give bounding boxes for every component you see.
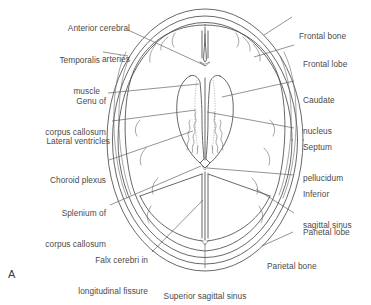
leader-lateral-ventricles [112,110,196,121]
label-falx-cerebri: Falx cerebri in longitudinal fissure [38,235,148,305]
anterior-longitudinal-fissure [200,27,210,66]
label-line: Caudate [303,95,369,105]
label-line: Falx cerebri in [38,255,148,265]
label-parietal-bone: Parietal bone [267,241,337,292]
splenium-shape [200,163,210,170]
label-line: Inferior [303,189,371,199]
label-line: Parietal lobe [303,227,371,237]
leader-falx-cerebri [152,200,203,252]
label-line: Genu of [6,96,106,106]
leader-choroid-plexus [109,131,193,160]
label-line: Superior sagittal sinus [145,291,265,301]
label-line: Frontal lobe [303,59,371,69]
label-line: Lateral ventricles [12,136,110,146]
leader-anterior-cerebral-arteries [128,30,206,66]
label-line: Septum [303,142,371,152]
leader-frontal-bone [264,17,292,35]
label-line: Splenium of [6,208,106,218]
label-line: Anterior cerebral [18,23,130,33]
panel-letter: A [8,268,15,280]
label-line: Parietal bone [267,261,337,271]
label-line: Temporalis [18,55,100,65]
label-superior-sagittal-sinus: Superior sagittal sinus [145,271,265,305]
posterior-falx-cerebri-shape [140,172,270,245]
leader-splenium-of-corpus-callosum [110,166,201,205]
label-line: Choroid plexus [18,175,106,185]
label-line: longitudinal fissure [38,286,148,296]
